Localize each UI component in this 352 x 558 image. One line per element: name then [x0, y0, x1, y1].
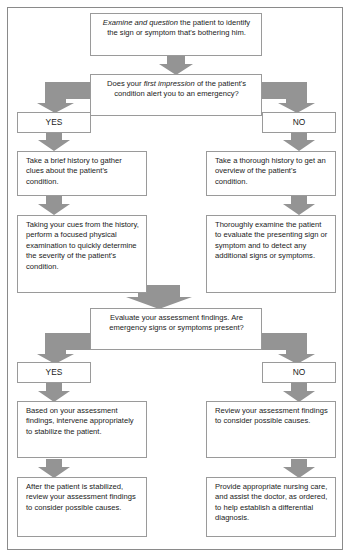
node-intervene-stabilize: Based on your assessment findings, inter…: [17, 401, 147, 458]
label-decision2-no-text: NO: [293, 368, 306, 376]
node-review-findings: Review your assessment findings to consi…: [206, 401, 336, 458]
connector-decision2-to-yes: [29, 333, 95, 364]
connector-intervene-to-after: [38, 459, 70, 478]
label-decision1-no: NO: [262, 112, 336, 133]
label-decision2-yes-text: YES: [46, 368, 63, 376]
connector-brief-history-to-focused-exam: [38, 196, 70, 215]
label-decision2-no: NO: [262, 362, 336, 383]
node-examine-question: Examine and question the patient to iden…: [90, 13, 262, 56]
connector-thorough-history-to-thorough-exam: [283, 196, 315, 215]
node-brief-history-text: Take a brief history to gather clues abo…: [26, 156, 122, 186]
node-thorough-exam-text: Thoroughly examine the patient to evalua…: [215, 220, 327, 260]
label-decision1-yes: YES: [17, 112, 91, 133]
node-review-text: Review your assessment findings to consi…: [215, 406, 328, 425]
node-thorough-history: Take a thorough history to get an overvi…: [206, 151, 336, 196]
node-focused-exam-text: Taking your cues from the history, perfo…: [26, 220, 139, 271]
node-intervene-text: Based on your assessment findings, inter…: [26, 406, 134, 436]
connector-yes-to-brief-history: [38, 132, 70, 151]
node-decision1-lead: Does your: [107, 79, 144, 88]
connector-decision1-to-yes: [29, 82, 95, 113]
label-decision2-yes: YES: [17, 362, 91, 383]
node-thorough-history-text: Take a thorough history to get an overvi…: [215, 156, 326, 186]
connector-no-to-thorough-history: [283, 132, 315, 151]
connector-start-to-decision1: [159, 55, 193, 75]
connector-yes-to-intervene: [38, 383, 70, 402]
node-evaluate-findings-decision: Evaluate your assessment findings. Are e…: [90, 308, 262, 350]
connector-no-to-review: [283, 383, 315, 402]
connector-review-to-provide: [283, 459, 315, 478]
label-decision1-no-text: NO: [293, 118, 306, 126]
node-focused-physical-exam: Taking your cues from the history, perfo…: [17, 215, 147, 293]
connector-decision2-to-no: [257, 333, 323, 364]
node-after-stabilized-review: After the patient is stabilized, review …: [17, 477, 147, 537]
connector-decision1-to-no: [257, 82, 323, 113]
node-decision1-italic: first impression: [144, 79, 195, 88]
flowchart-page: Examine and question the patient to iden…: [0, 0, 352, 558]
node-brief-history: Take a brief history to gather clues abo…: [17, 151, 147, 196]
node-first-impression-decision: Does your first impression of the patien…: [90, 74, 262, 116]
node-thorough-examination: Thoroughly examine the patient to evalua…: [206, 215, 336, 293]
node-after-stabilized-text: After the patient is stabilized, review …: [26, 482, 136, 512]
node-examine-question-italic: Examine and question: [103, 18, 178, 27]
node-provide-nursing-care: Provide appropriate nursing care, and as…: [206, 477, 336, 537]
node-decision2-text: Evaluate your assessment findings. Are e…: [109, 313, 244, 332]
node-provide-nursing-text: Provide appropriate nursing care, and as…: [215, 482, 327, 522]
label-decision1-yes-text: YES: [46, 118, 63, 126]
